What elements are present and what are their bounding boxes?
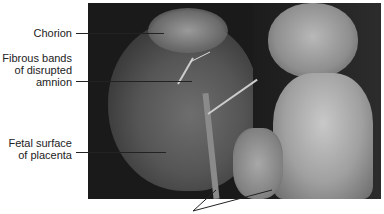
bottom-leader-lines: [0, 0, 384, 214]
